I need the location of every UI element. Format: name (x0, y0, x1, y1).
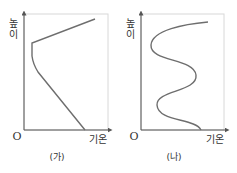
y-label-bottom: 이 (9, 29, 18, 40)
panel-caption: (가) (49, 152, 64, 162)
x-label: 기온 (89, 134, 107, 145)
panel-ga: 높 이 O 기온 (가) (9, 13, 111, 162)
panel-caption: (나) (166, 152, 181, 162)
origin-label: O (12, 130, 21, 143)
y-label-top: 높 (126, 18, 135, 29)
x-label: 기온 (206, 134, 224, 145)
temperature-profile-curve (32, 19, 95, 130)
diagram-canvas: 높 이 O 기온 (가) 높 이 O 기온 (나) (0, 0, 237, 173)
panel-na: 높 이 O 기온 (나) (126, 13, 228, 162)
temperature-profile-curve (151, 22, 208, 130)
y-label-top: 높 (9, 18, 18, 29)
frame (141, 14, 224, 130)
y-label-bottom: 이 (126, 29, 135, 40)
frame (24, 14, 108, 130)
origin-label: O (129, 130, 138, 143)
